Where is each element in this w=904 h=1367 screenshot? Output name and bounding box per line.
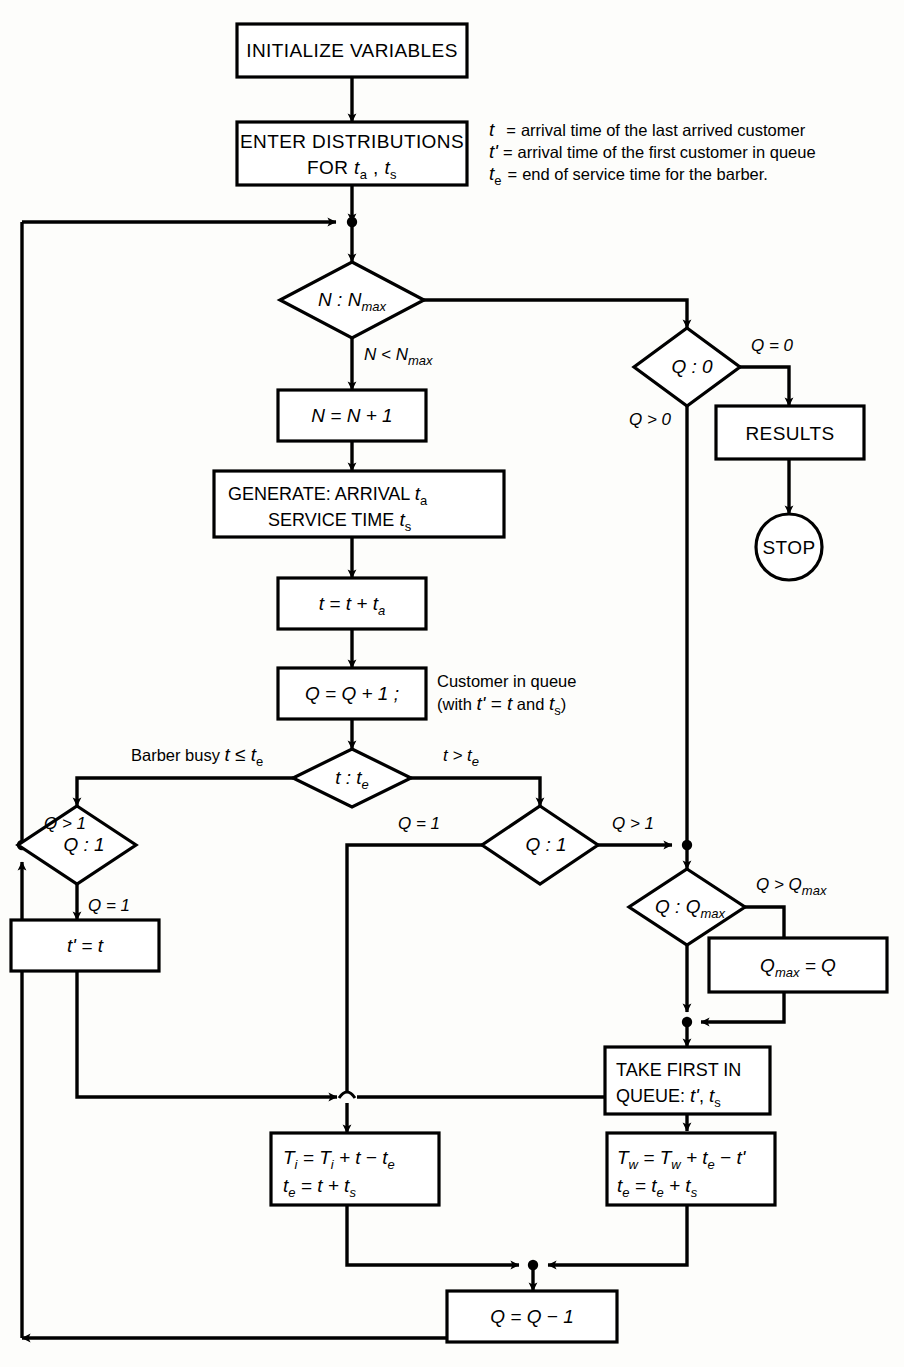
edge-tprime-to-merge [77, 971, 337, 1097]
junction-dot-bottom-merge [528, 1260, 538, 1270]
edge-label-barber-busy: Barber busy t ≤ te [131, 744, 263, 769]
junction-dot-right-col [682, 840, 692, 850]
edge-label-q-gt-qmax: Q > Qmax [756, 875, 827, 898]
node-tprime-assign[interactable]: t' = t [11, 920, 159, 971]
annotation-customer-in-queue: Customer in queue (with t' = t and ts) [437, 672, 576, 718]
n-inc-label: N = N + 1 [311, 405, 392, 426]
edge-label-q-eq-0: Q = 0 [751, 336, 794, 355]
edge-label-q-eq-1-right: Q = 1 [398, 814, 440, 833]
node-wait-update[interactable]: Tw = Tw + te − t' te = te + ts [607, 1133, 775, 1205]
node-enter-distributions[interactable]: ENTER DISTRIBUTIONS FOR ta , ts [237, 122, 467, 185]
edge-qmax-gt [745, 907, 784, 938]
node-n-test[interactable]: N : Nmax [280, 262, 424, 338]
edge-label-n-less-nmax: N < Nmax [364, 345, 433, 368]
node-qmax-test[interactable]: Q : Qmax [629, 869, 745, 945]
edge-label-t-gt-te: t > te [443, 746, 479, 769]
q-inc-label: Q = Q + 1 ; [305, 683, 399, 704]
edge-ttest-right [411, 778, 540, 806]
node-q-increment[interactable]: Q = Q + 1 ; [278, 668, 426, 719]
enter-dist-line1: ENTER DISTRIBUTIONS [240, 131, 464, 152]
edge-q0-eq0 [740, 367, 789, 406]
edge-label-q-gt-1-right: Q > 1 [612, 814, 654, 833]
edge-q1right-eq1 [347, 845, 482, 1086]
edge-label-q-gt-1-left: Q > 1 [44, 814, 86, 833]
node-n-increment[interactable]: N = N + 1 [278, 390, 426, 441]
node-idle-update[interactable]: Ti = Ti + t − te te = t + ts [271, 1133, 439, 1205]
edge-hop-arc [339, 1092, 355, 1098]
edge-ttest-left [77, 778, 293, 806]
node-generate[interactable]: GENERATE: ARRIVAL ta SERVICE TIME ts [214, 471, 504, 537]
stop-label: STOP [763, 537, 816, 558]
edge-label-q-gt-0: Q > 0 [629, 410, 672, 429]
legend: t=arrival time of the last arrived custo… [489, 119, 816, 188]
annotation-line1: Customer in queue [437, 672, 576, 690]
q-dec-label: Q = Q − 1 [490, 1306, 573, 1327]
node-stop[interactable]: STOP [756, 514, 822, 580]
initialize-label: INITIALIZE VARIABLES [246, 40, 457, 61]
node-qmax-assign[interactable]: Qmax = Q [709, 938, 887, 992]
node-t-update[interactable]: t = t + ta [278, 578, 426, 629]
node-q0-test[interactable]: Q : 0 [634, 328, 740, 406]
q0-label: Q : 0 [671, 356, 713, 377]
take-first-line1: TAKE FIRST IN [616, 1060, 741, 1080]
legend-line-2: te=end of service time for the barber. [489, 163, 768, 188]
q1-right-label: Q : 1 [525, 834, 566, 855]
results-label: RESULTS [745, 423, 834, 444]
flowchart-canvas: INITIALIZE VARIABLES ENTER DISTRIBUTIONS… [0, 0, 904, 1367]
edge-label-q-eq-1-left: Q = 1 [88, 896, 130, 915]
node-t-te-test[interactable]: t : te [293, 749, 411, 807]
tprime-label: t' = t [67, 935, 104, 956]
flowchart-svg: INITIALIZE VARIABLES ENTER DISTRIBUTIONS… [0, 0, 904, 1367]
node-results[interactable]: RESULTS [716, 406, 864, 459]
junction-dot-top [347, 217, 357, 227]
node-q1-right[interactable]: Q : 1 [482, 806, 598, 884]
annotation-line2: (with t' = t and ts) [437, 693, 566, 718]
legend-line-1: t'=arrival time of the first customer in… [489, 141, 816, 162]
node-take-first-in-queue[interactable]: TAKE FIRST IN QUEUE: t', ts [605, 1047, 770, 1114]
edge-ntest-to-q0 [424, 300, 687, 328]
node-q-decrement[interactable]: Q = Q − 1 [447, 1291, 617, 1342]
junction-dot-qmax-merge [682, 1017, 692, 1027]
q1-left-label: Q : 1 [63, 834, 104, 855]
legend-line-0: t=arrival time of the last arrived custo… [489, 119, 806, 140]
edge-qmaxassign-return [701, 992, 784, 1022]
edge-idle-to-bottom-merge [347, 1205, 519, 1265]
node-initialize-variables[interactable]: INITIALIZE VARIABLES [237, 24, 467, 77]
edge-wait-to-bottom-merge [548, 1205, 687, 1265]
